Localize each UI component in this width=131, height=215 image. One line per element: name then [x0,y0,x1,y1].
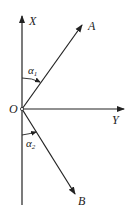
x-axis-label: X [28,14,37,28]
vector-b [22,109,75,194]
origin-label: O [9,102,18,116]
origin-point [20,107,23,110]
angle-alpha2-label: α2 [26,137,36,151]
vector-b-label: B [78,194,86,208]
angle-arc-alpha2 [22,132,36,135]
angle-arc-alpha1 [22,78,40,82]
vector-a-label: A [87,19,96,33]
vector-diagram: X Y O A B α1 α2 [0,0,131,215]
angle-alpha1-label: α1 [28,64,37,78]
y-axis-label: Y [112,113,120,127]
